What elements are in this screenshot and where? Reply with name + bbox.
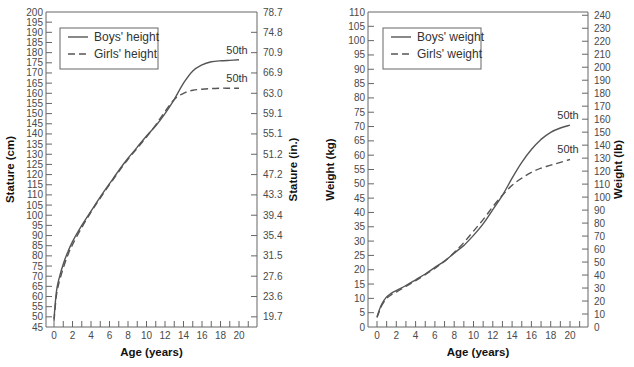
- legend-label: Boys' height: [94, 30, 160, 44]
- y-right-tick-label: 100: [594, 192, 611, 203]
- y-right-tick-label: 40: [594, 270, 606, 281]
- y-tick-label: 35: [354, 221, 366, 232]
- y-right-tick-label: 66.9: [263, 67, 283, 78]
- y-right-tick-label: 200: [594, 62, 611, 73]
- legend-label: Girls' height: [94, 47, 158, 61]
- y-tick-label: 80: [354, 92, 366, 103]
- x-axis-title: Age (years): [447, 346, 510, 358]
- x-tick-label: 0: [51, 330, 57, 341]
- y-tick-label: 45: [32, 322, 44, 333]
- y-right-tick-label: 80: [594, 218, 606, 229]
- y-right-tick-label: 210: [594, 49, 611, 60]
- y-tick-label: 115: [27, 179, 43, 190]
- y-right-tick-label: 43.3: [263, 189, 283, 200]
- y-tick-label: 75: [354, 107, 366, 118]
- x-tick-label: 8: [125, 330, 131, 341]
- x-tick-label: 10: [468, 330, 480, 341]
- y-right-tick-label: 39.4: [263, 210, 283, 221]
- legend-label: Boys' weight: [417, 30, 485, 44]
- y-right-tick-label: 190: [594, 75, 611, 86]
- x-tick-label: 8: [451, 330, 457, 341]
- x-tick-label: 20: [233, 330, 245, 341]
- y-right-tick-label: 180: [594, 88, 611, 99]
- y-tick-label: 5: [359, 307, 365, 318]
- y-tick-label: 90: [32, 230, 44, 241]
- y-tick-label: 155: [26, 98, 43, 109]
- y-tick-label: 105: [348, 21, 365, 32]
- y-right-tick-label: 74.8: [263, 27, 283, 38]
- y-right-tick-label: 20: [594, 296, 606, 307]
- y-tick-label: 160: [26, 88, 43, 99]
- growth-charts: 4550556065707580859095100105110115120125…: [0, 0, 634, 367]
- y-tick-label: 175: [26, 57, 43, 68]
- y-tick-label: 110: [27, 189, 43, 200]
- y-tick-label: 45: [354, 193, 366, 204]
- girls-curve: [54, 88, 239, 321]
- y-tick-label: 50: [32, 311, 44, 322]
- y-tick-label: 55: [32, 301, 44, 312]
- y-tick-label: 85: [32, 240, 44, 251]
- y-right-tick-label: 78.7: [263, 7, 283, 18]
- y-right-tick-label: 23.6: [263, 291, 283, 302]
- x-tick-label: 16: [196, 330, 208, 341]
- y-right-tick-label: 120: [594, 166, 611, 177]
- y-tick-label: 185: [26, 37, 43, 48]
- y-right-tick-label: 0: [594, 322, 600, 333]
- x-tick-label: 18: [215, 330, 227, 341]
- y-tick-label: 125: [26, 159, 43, 170]
- y-tick-label: 120: [26, 169, 43, 180]
- y-tick-label: 25: [354, 250, 366, 261]
- y-tick-label: 95: [32, 220, 44, 231]
- percentile-label: 50th: [557, 143, 578, 155]
- y-tick-label: 10: [354, 293, 366, 304]
- x-tick-label: 4: [413, 330, 419, 341]
- y-tick-label: 180: [26, 47, 43, 58]
- y-right-tick-label: 10: [594, 309, 606, 320]
- x-tick-label: 12: [487, 330, 499, 341]
- y-right-tick-label: 90: [594, 205, 606, 216]
- y-right-tick-label: 110: [594, 179, 610, 190]
- y-right-tick-label: 130: [594, 153, 611, 164]
- x-axis-title: Age (years): [120, 346, 183, 358]
- y-tick-label: 70: [32, 271, 44, 282]
- y-right-axis-title: Stature (in.): [287, 137, 299, 201]
- y-tick-label: 165: [26, 78, 43, 89]
- y-tick-label: 65: [32, 281, 44, 292]
- y-tick-label: 170: [26, 67, 43, 78]
- y-tick-label: 75: [32, 261, 44, 272]
- y-tick-label: 50: [354, 178, 366, 189]
- y-right-tick-label: 160: [594, 114, 611, 125]
- x-tick-label: 20: [564, 330, 576, 341]
- y-tick-label: 20: [354, 264, 366, 275]
- y-tick-label: 60: [354, 150, 366, 161]
- y-right-tick-label: 55.1: [263, 128, 283, 139]
- y-tick-label: 135: [26, 139, 43, 150]
- x-tick-label: 2: [394, 330, 400, 341]
- y-tick-label: 200: [26, 7, 43, 18]
- x-tick-label: 6: [432, 330, 438, 341]
- y-right-axis-title: Weight (lb): [612, 140, 624, 199]
- x-tick-label: 0: [374, 330, 380, 341]
- y-tick-label: 100: [26, 210, 43, 221]
- x-tick-label: 2: [70, 330, 76, 341]
- x-tick-label: 10: [141, 330, 153, 341]
- y-tick-label: 130: [26, 149, 43, 160]
- x-tick-label: 4: [88, 330, 94, 341]
- y-tick-label: 55: [354, 164, 366, 175]
- y-tick-label: 150: [26, 108, 43, 119]
- y-right-tick-label: 51.2: [263, 149, 283, 160]
- y-right-tick-label: 60: [594, 244, 606, 255]
- y-right-tick-label: 19.7: [263, 311, 283, 322]
- y-tick-label: 80: [32, 250, 44, 261]
- percentile-label: 50th: [226, 44, 247, 56]
- y-right-tick-label: 70: [594, 231, 606, 242]
- y-right-tick-label: 63.0: [263, 88, 283, 99]
- y-axis-title: Weight (kg): [324, 138, 336, 201]
- x-tick-label: 12: [159, 330, 171, 341]
- boys-curve: [377, 125, 570, 317]
- girls-curve: [377, 160, 570, 318]
- y-tick-label: 100: [348, 35, 365, 46]
- x-tick-label: 14: [507, 330, 519, 341]
- height-chart: 4550556065707580859095100105110115120125…: [4, 7, 299, 359]
- y-right-tick-label: 230: [594, 23, 611, 34]
